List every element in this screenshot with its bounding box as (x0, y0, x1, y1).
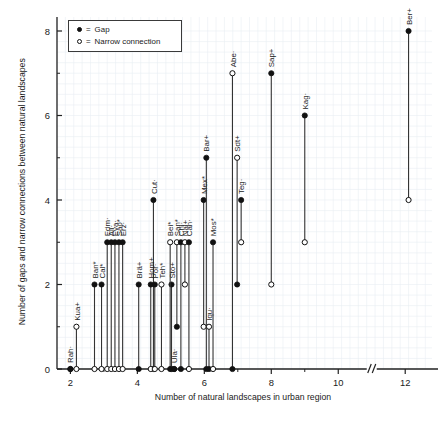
narrow-connection-marker (269, 282, 274, 287)
point-label: Cut· (150, 179, 159, 194)
y-tick-label: 4 (45, 195, 50, 206)
filled-circle-icon (77, 27, 82, 32)
gap-marker (210, 240, 215, 245)
narrow-connection-marker (159, 282, 164, 287)
gap-marker (92, 282, 97, 287)
point-label: Teh* (158, 263, 167, 279)
gap-marker (152, 282, 157, 287)
y-tick-label: 8 (45, 26, 50, 37)
y-axis-label-wrapper: Number of gaps and narrow connections be… (8, 18, 38, 370)
narrow-connection-marker (235, 155, 240, 160)
narrow-connection-marker (230, 71, 235, 76)
gap-marker (178, 366, 183, 371)
point-label: Sdt+ (233, 135, 242, 152)
legend-label-gap: Gap (95, 25, 110, 34)
x-tick-label: 10 (333, 377, 343, 388)
gap-marker (302, 113, 307, 118)
point-label: Cal* (98, 264, 107, 279)
gap-marker (204, 155, 209, 160)
chart-legend: = Gap = Narrow connection (68, 20, 182, 52)
narrow-connection-marker (201, 324, 206, 329)
gap-marker (172, 366, 177, 371)
point-label: Rah· (66, 346, 75, 363)
narrow-connection-marker (74, 324, 79, 329)
point-label: Sto+ (168, 262, 177, 279)
narrow-connection-marker (406, 197, 411, 202)
scatter-chart: 0246824681012Rah·Kua+Ban*Cal*Edm·Ali·Eva… (0, 0, 443, 421)
point-label: Can· (185, 219, 194, 236)
gap-marker (406, 28, 411, 33)
gap-marker (235, 282, 240, 287)
gap-marker (269, 71, 274, 76)
data-stem: Por· (151, 264, 160, 372)
narrow-connection-marker (74, 366, 79, 371)
narrow-connection-marker (206, 324, 211, 329)
point-label: Ula· (170, 349, 179, 363)
point-label: Bar+ (202, 134, 211, 151)
legend-equals-gap: = (86, 25, 91, 34)
gap-marker (120, 240, 125, 245)
gap-marker (230, 366, 235, 371)
data-stem: Teg· (237, 179, 246, 245)
narrow-connection-marker (168, 240, 173, 245)
legend-label-narrow-connection: Narrow connection (95, 37, 161, 46)
y-tick-label: 0 (45, 364, 50, 375)
point-label: Brä+ (135, 261, 144, 278)
x-axis-label: Number of natural landscapes in urban re… (56, 392, 430, 402)
legend-item-gap: = Gap (77, 25, 110, 34)
gap-marker (239, 197, 244, 202)
y-tick-label: 2 (45, 279, 50, 290)
gap-marker (136, 282, 141, 287)
narrow-connection-marker (239, 240, 244, 245)
x-tick-label: 12 (400, 377, 410, 388)
data-stem: Teh* (158, 263, 167, 372)
gap-marker (151, 197, 156, 202)
gap-marker (99, 282, 104, 287)
point-label: Mex* (200, 176, 209, 194)
chart-canvas: 0246824681012Rah·Kua+Ban*Cal*Edm·Ali·Eva… (0, 0, 443, 421)
axis-break-marker (367, 364, 377, 373)
point-label: Mos* (209, 218, 218, 236)
x-tick-label: 2 (68, 377, 73, 388)
point-label: Teg· (237, 179, 246, 194)
point-label: Kag· (301, 93, 310, 110)
point-label: Kua+ (73, 302, 82, 321)
narrow-connection-marker (186, 366, 191, 371)
narrow-connection-marker (302, 240, 307, 245)
point-label: Sap+ (267, 48, 276, 67)
narrow-connection-marker (92, 366, 97, 371)
narrow-connection-marker (210, 366, 215, 371)
y-tick-label: 6 (45, 110, 50, 121)
gap-marker (174, 324, 179, 329)
narrow-connection-marker (182, 282, 187, 287)
x-tick-label: 8 (269, 377, 274, 388)
gap-marker (68, 366, 73, 371)
open-circle-icon (77, 39, 82, 44)
legend-item-narrow-connection: = Narrow connection (77, 37, 160, 46)
x-tick-label: 4 (135, 377, 140, 388)
gap-marker (201, 197, 206, 202)
legend-equals-narrow: = (86, 37, 91, 46)
narrow-connection-marker (152, 366, 157, 371)
gap-marker (186, 240, 191, 245)
narrow-connection-marker (99, 366, 104, 371)
gap-marker (136, 366, 141, 371)
narrow-connection-marker (159, 366, 164, 371)
point-label: Erz· (119, 222, 128, 236)
point-label: Abe· (229, 51, 238, 68)
x-tick-label: 6 (202, 377, 207, 388)
narrow-connection-marker (120, 366, 125, 371)
data-stem: Ula· (170, 349, 179, 372)
point-label: Ber+ (405, 8, 414, 25)
y-axis-label: Number of gaps and narrow connections be… (17, 16, 29, 368)
